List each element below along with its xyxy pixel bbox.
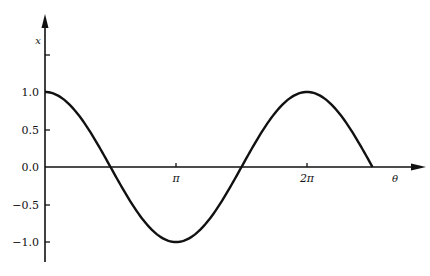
x-tick-label: π [171, 172, 180, 185]
x-tick-label: 2π [299, 172, 315, 185]
y-tick-label: −0.5 [12, 199, 39, 212]
y-axis-arrow-icon [42, 14, 49, 28]
y-tick-label: 1.0 [22, 86, 40, 99]
x-axis-label: θ [392, 173, 398, 184]
y-tick-label: 0.5 [22, 124, 40, 137]
y-tick-label: 0.0 [22, 161, 40, 174]
y-axis-label: x [35, 35, 41, 46]
y-tick-label: −1.0 [12, 236, 39, 249]
chart: 1.0 0.5 0.0 −0.5 −1.0 π 2π x θ [0, 0, 430, 276]
x-axis-arrow-icon [411, 164, 426, 171]
